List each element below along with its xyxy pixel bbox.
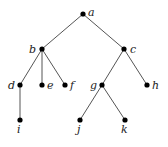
node-label-g: g bbox=[90, 79, 97, 92]
edge-a-b bbox=[42, 14, 83, 49]
node-label-j: j bbox=[74, 123, 81, 136]
node-h bbox=[144, 82, 149, 87]
node-k bbox=[122, 117, 127, 122]
node-label-h: h bbox=[152, 79, 159, 92]
node-a bbox=[80, 11, 85, 16]
node-label-e: e bbox=[47, 79, 54, 92]
node-i bbox=[17, 117, 22, 122]
edge-c-g bbox=[102, 49, 124, 85]
node-label-i: i bbox=[17, 123, 21, 136]
node-label-a: a bbox=[88, 6, 95, 19]
node-label-d: d bbox=[8, 79, 15, 92]
node-c bbox=[121, 46, 126, 51]
node-b bbox=[39, 46, 44, 51]
tree-diagram: abcdefghijk bbox=[0, 0, 168, 147]
tree-labels: abcdefghijk bbox=[8, 6, 159, 136]
node-label-b: b bbox=[29, 43, 36, 56]
node-f bbox=[62, 82, 67, 87]
node-label-f: f bbox=[69, 79, 76, 92]
edge-a-c bbox=[83, 14, 124, 49]
node-label-c: c bbox=[130, 43, 136, 56]
node-e bbox=[39, 82, 44, 87]
node-g bbox=[99, 82, 104, 87]
tree-edges bbox=[20, 14, 147, 120]
node-d bbox=[17, 82, 22, 87]
node-label-k: k bbox=[121, 123, 128, 136]
tree-nodes bbox=[17, 11, 149, 122]
node-j bbox=[77, 117, 82, 122]
edge-g-k bbox=[102, 85, 125, 120]
